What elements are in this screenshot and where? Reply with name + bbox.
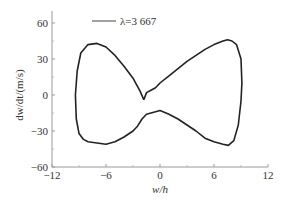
phase-portrait-chart: −12−60612−60−3003060 λ=3 667 w/h dw/dt/(… <box>0 0 290 201</box>
y-tick-label: 60 <box>37 17 49 29</box>
x-tick-label: 0 <box>157 169 163 181</box>
legend: λ=3 667 <box>92 15 157 27</box>
x-tick-label: 6 <box>211 169 217 181</box>
chart-svg: −12−60612−60−3003060 λ=3 667 w/h dw/dt/(… <box>0 0 290 201</box>
y-tick-label: −60 <box>31 161 49 173</box>
x-axis-label: w/h <box>152 183 168 195</box>
x-tick-label: 12 <box>263 169 274 181</box>
y-tick-label: 30 <box>37 53 49 65</box>
legend-label: λ=3 667 <box>120 15 157 27</box>
y-tick-label: −30 <box>31 125 49 137</box>
x-tick-label: −6 <box>100 169 112 181</box>
y-tick-label: 0 <box>43 89 49 101</box>
series-line <box>75 40 242 146</box>
axes: −12−60612−60−3003060 <box>31 11 274 181</box>
y-axis-label: dw/dt/(m/s) <box>13 69 26 121</box>
